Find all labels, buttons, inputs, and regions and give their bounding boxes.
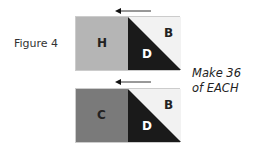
letter-d: D [142, 47, 152, 61]
letter-b: B [164, 98, 173, 112]
instruction-line2: of EACH [192, 81, 241, 96]
block-c: C B D [75, 88, 180, 143]
letter-c: C [97, 108, 106, 122]
patch-c: C [76, 89, 128, 142]
patch-h: H [76, 17, 128, 70]
letter-h: H [97, 36, 107, 50]
instruction-line1: Make 36 [192, 66, 241, 81]
arrow-left-icon [115, 79, 151, 85]
block-h: H B D [75, 16, 180, 71]
letter-b: B [164, 26, 173, 40]
half-square-triangle [128, 89, 181, 142]
instruction-text: Make 36 of EACH [192, 66, 241, 96]
half-square-triangle [128, 17, 181, 70]
letter-d: D [142, 119, 152, 133]
figure-label: Figure 4 [14, 37, 58, 50]
arrow-left-icon [115, 8, 151, 14]
